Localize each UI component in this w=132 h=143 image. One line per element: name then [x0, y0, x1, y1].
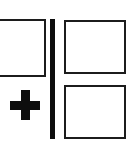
- plus-operator-symbol: +: [10, 90, 11, 91]
- right-panel-bottom-label: [66, 87, 67, 88]
- plus-vertical-bar: [21, 90, 30, 120]
- diagram-canvas: Split panel combine diagram +: [0, 0, 132, 143]
- right-panel-top-label: [66, 22, 67, 23]
- right-panel-bottom[interactable]: [64, 85, 126, 139]
- vertical-divider[interactable]: [50, 19, 55, 139]
- left-panel[interactable]: [0, 19, 46, 77]
- right-panel-top[interactable]: [64, 20, 126, 74]
- figure-title: Split panel combine diagram: [0, 0, 1, 1]
- plus-operator-icon: +: [10, 90, 40, 120]
